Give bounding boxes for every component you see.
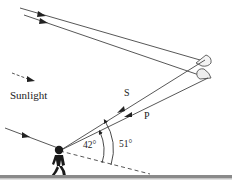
incoming-sunlight-rays bbox=[20, 8, 202, 76]
angle-42-label: 42° bbox=[83, 140, 97, 150]
antisolar-dashed-line bbox=[60, 151, 150, 174]
label-s: S bbox=[124, 87, 130, 98]
person-body-icon bbox=[52, 155, 65, 166]
sunlight-ray-observer bbox=[5, 128, 58, 148]
arrow-icon bbox=[37, 11, 46, 17]
ground bbox=[0, 175, 232, 179]
angle-51-label: 51° bbox=[119, 139, 133, 149]
person-leg-right-icon bbox=[59, 166, 66, 176]
arrow-icon bbox=[27, 76, 35, 82]
arrow-icon bbox=[39, 18, 48, 24]
angle-arc-42: 42° bbox=[83, 132, 104, 163]
ground-shadow bbox=[0, 179, 232, 180]
ray-s: S bbox=[61, 60, 205, 150]
raindrop-lower bbox=[197, 69, 211, 79]
sunlight-legend: Sunlight bbox=[10, 73, 47, 101]
angle-arc-51: 51° bbox=[105, 121, 133, 165]
arrow-icon bbox=[22, 132, 30, 138]
person-leg-left-icon bbox=[51, 166, 59, 176]
label-p: P bbox=[144, 110, 150, 121]
rainbow-diagram: S P Sunlight 42° 51° bbox=[0, 0, 232, 184]
observer bbox=[51, 146, 66, 176]
person-head-icon bbox=[55, 146, 63, 154]
arrow-icon bbox=[117, 106, 125, 113]
diagram-canvas: S P Sunlight 42° 51° bbox=[0, 0, 232, 184]
sunlight-label: Sunlight bbox=[10, 89, 47, 101]
arrow-icon bbox=[124, 112, 132, 117]
